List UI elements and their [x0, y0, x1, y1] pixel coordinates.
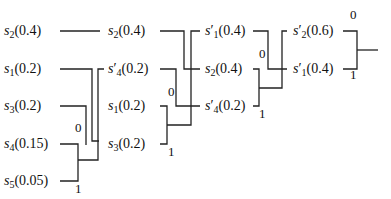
node-s1pb: s′1(0.4)	[293, 62, 333, 76]
node-s4p: s′4(0.2)	[108, 62, 148, 76]
node-s4pb: s′4(0.2)	[205, 99, 245, 113]
tree-edge	[160, 69, 200, 106]
probability: (0.2)	[118, 136, 145, 151]
node-s3: s3(0.2)	[4, 99, 41, 113]
tree-edge	[60, 144, 78, 181]
node-s1p: s′1(0.4)	[205, 24, 245, 38]
probability: (0.2)	[118, 98, 145, 113]
node-s2b: s2(0.4)	[108, 24, 145, 38]
probability: (0.4)	[215, 61, 242, 76]
node-s3b: s3(0.2)	[108, 137, 145, 151]
tree-edge	[160, 106, 167, 144]
bit-label-0: 0	[168, 85, 175, 98]
bit-label-1: 1	[350, 68, 357, 81]
tree-edge	[160, 31, 200, 69]
probability: (0.6)	[307, 23, 334, 38]
tree-edge	[60, 106, 86, 145]
probability: (0.2)	[219, 98, 246, 113]
bit-label-1: 1	[168, 145, 175, 158]
probability: (0.4)	[307, 61, 334, 76]
bit-label-0: 0	[75, 121, 82, 134]
node-s1: s1(0.2)	[4, 62, 41, 76]
probability: (0.2)	[14, 61, 41, 76]
node-s4: s4(0.15)	[4, 137, 48, 151]
probability: (0.2)	[122, 61, 149, 76]
node-s2c: s2(0.4)	[205, 62, 242, 76]
bit-label-0: 0	[259, 47, 266, 60]
probability: (0.4)	[14, 23, 41, 38]
bit-label-1: 1	[75, 182, 82, 195]
huffman-tree-diagram: s2(0.4)s1(0.2)s3(0.2)s4(0.15)s5(0.05)s2(…	[0, 0, 391, 199]
probability: (0.4)	[118, 23, 145, 38]
bit-label-1: 1	[259, 107, 266, 120]
tree-edge	[343, 31, 357, 69]
node-s2p: s′2(0.6)	[293, 24, 333, 38]
tree-edge	[253, 69, 259, 106]
probability: (0.4)	[219, 23, 246, 38]
tree-edge	[78, 69, 104, 160]
node-s2: s2(0.4)	[4, 24, 41, 38]
bit-label-0: 0	[350, 8, 357, 21]
probability: (0.05)	[14, 173, 48, 188]
probability: (0.2)	[14, 98, 41, 113]
node-s1b: s1(0.2)	[108, 99, 145, 113]
probability: (0.15)	[14, 136, 48, 151]
node-s5: s5(0.05)	[4, 174, 48, 188]
